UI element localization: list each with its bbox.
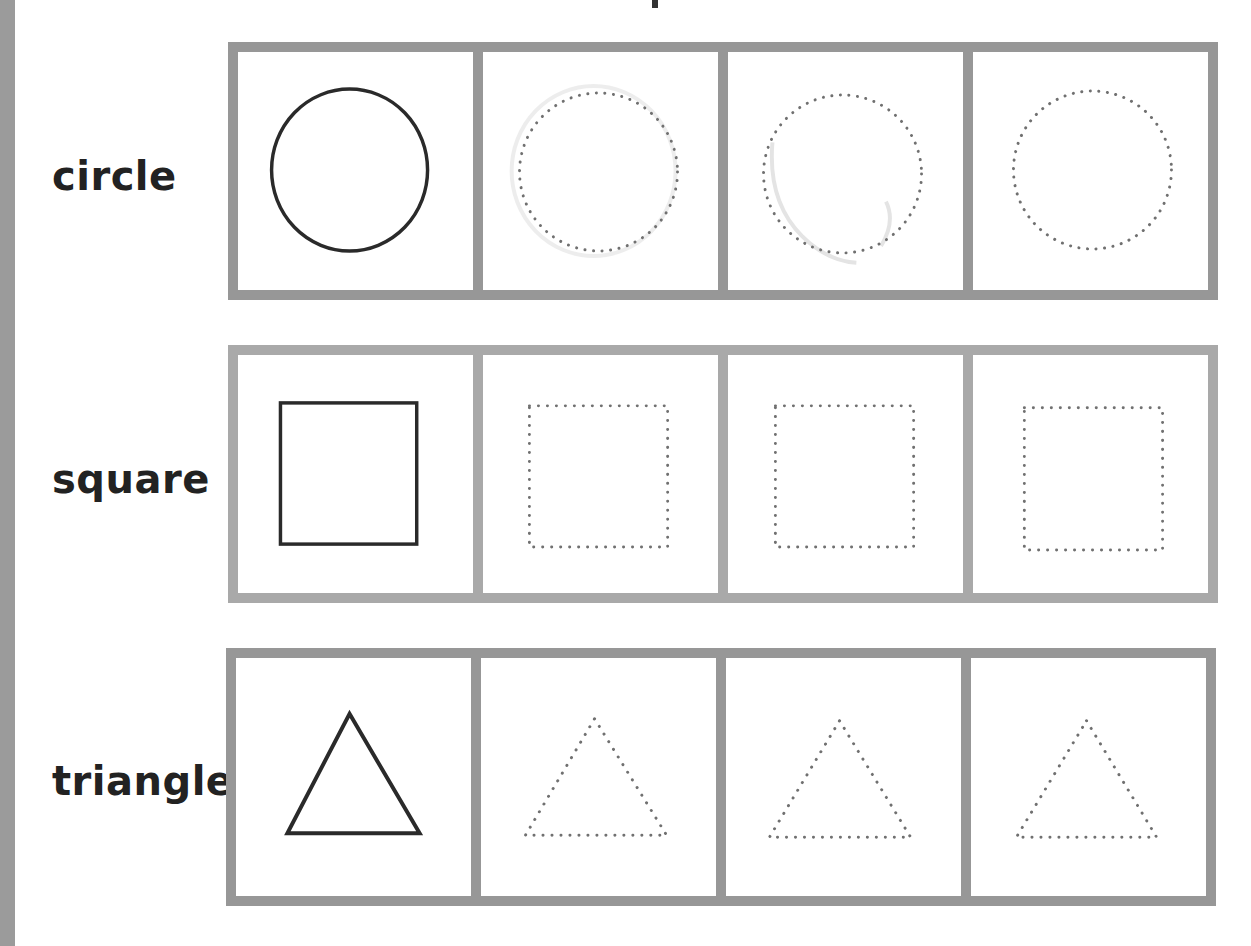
dotted-triangle-icon	[726, 658, 961, 896]
cell-circle-trace-3[interactable]	[973, 52, 1208, 290]
cell-square-trace-3[interactable]	[973, 355, 1208, 593]
row-label-circle: circle	[52, 152, 227, 200]
dotted-circle-icon	[483, 52, 718, 290]
cell-circle-trace-2[interactable]	[728, 52, 973, 290]
cell-triangle-trace-1[interactable]	[481, 658, 726, 896]
cell-square-trace-2[interactable]	[728, 355, 973, 593]
solid-square-icon	[238, 355, 473, 593]
dotted-circle-icon	[728, 52, 963, 290]
solid-circle-icon	[238, 52, 473, 290]
cell-triangle-example	[236, 658, 481, 896]
dotted-square-icon	[483, 355, 718, 593]
row-square	[228, 345, 1218, 603]
row-triangle	[226, 648, 1216, 906]
dotted-circle-icon	[973, 52, 1208, 290]
row-label-square: square	[52, 455, 227, 503]
cell-square-trace-1[interactable]	[483, 355, 728, 593]
cell-circle-trace-1[interactable]	[483, 52, 728, 290]
cell-square-example	[238, 355, 483, 593]
dotted-triangle-icon	[971, 658, 1206, 896]
dotted-square-icon	[973, 355, 1208, 593]
cell-triangle-trace-2[interactable]	[726, 658, 971, 896]
dotted-triangle-icon	[481, 658, 716, 896]
dotted-square-icon	[728, 355, 963, 593]
row-circle	[228, 42, 1218, 300]
row-label-triangle: triangle	[52, 757, 227, 805]
cell-circle-example	[238, 52, 483, 290]
page-edge-strip	[0, 0, 15, 946]
cropped-title-fragment	[652, 0, 658, 8]
solid-triangle-icon	[236, 658, 471, 896]
cell-triangle-trace-3[interactable]	[971, 658, 1206, 896]
